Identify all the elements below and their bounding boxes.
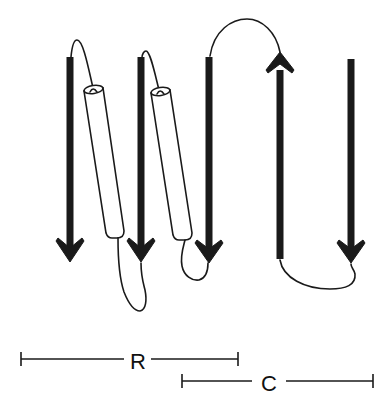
alpha-helix-2 <box>151 86 192 240</box>
alpha-helix-1 <box>84 84 124 238</box>
beta-strand-1 <box>56 57 84 262</box>
beta-strand-2 <box>127 57 155 262</box>
arrow-up-icon <box>266 52 294 73</box>
range-label-r: R <box>130 349 146 374</box>
range-bar-c: C <box>182 371 373 396</box>
loop-strand2-helix2 <box>142 51 159 90</box>
range-label-c: C <box>261 371 277 396</box>
loop-strand1-helix1 <box>71 40 93 88</box>
topology-diagram: R C <box>0 0 390 409</box>
range-bar-r: R <box>21 349 238 374</box>
loop-strand4-strand5 <box>280 260 355 289</box>
beta-strand-4 <box>266 52 294 259</box>
loop-strand3-strand4 <box>210 19 280 56</box>
beta-strand-5 <box>337 59 365 263</box>
beta-strand-3 <box>195 57 223 263</box>
